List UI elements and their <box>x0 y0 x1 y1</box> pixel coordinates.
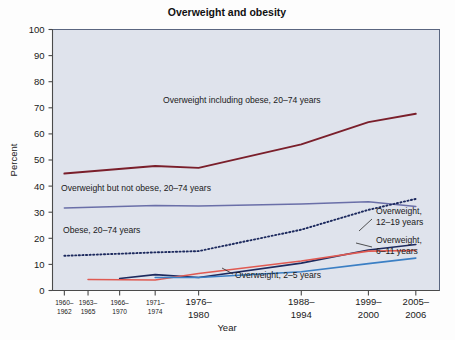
y-axis-title: Percent <box>8 143 19 176</box>
x-tick-label-line1: 1999– <box>355 296 382 307</box>
y-tick-label: 10 <box>34 259 45 270</box>
x-tick-label-line1: 1963– <box>79 299 98 306</box>
y-tick-label: 0 <box>39 285 44 296</box>
overweight-and-obesity-line-chart: Overweight and obesity 01020304050607080… <box>0 0 455 340</box>
y-tick-label: 40 <box>34 181 45 192</box>
y-tick-label: 60 <box>34 128 45 139</box>
x-tick-label-line2: 2000 <box>358 309 379 320</box>
x-tick-label-line2: 2006 <box>405 309 426 320</box>
y-tick-label: 50 <box>34 154 45 165</box>
chart-figure: Overweight and obesity 01020304050607080… <box>0 0 455 340</box>
y-tick-label: 90 <box>34 50 45 61</box>
chart-title: Overweight and obesity <box>168 6 287 18</box>
y-tick-label: 70 <box>34 102 45 113</box>
x-tick-label-line1: 1976– <box>185 296 212 307</box>
x-tick-label-line2: 1994 <box>291 309 312 320</box>
annotation-obese-20-74: Obese, 20–74 years <box>63 225 140 235</box>
annotation-overweight-not-obese: Overweight but not obese, 20–74 years <box>61 183 211 193</box>
annotation-overweight-6-11-line1: Overweight, <box>376 235 422 245</box>
x-tick-label-line1: 1971– <box>146 299 165 306</box>
y-tick-label: 80 <box>34 76 45 87</box>
x-tick-label-line1: 1960– <box>55 299 74 306</box>
annotation-overweight-including-obese: Overweight including obese, 20–74 years <box>163 95 321 105</box>
annotation-overweight-6-11-line2: 6–11 years <box>376 246 418 256</box>
annotation-overweight-12-19-line1: Overweight, <box>376 206 422 216</box>
x-tick-label-line2: 1970 <box>112 308 127 315</box>
y-tick-label: 20 <box>34 233 45 244</box>
x-tick-label-line1: 2005– <box>403 296 430 307</box>
annotation-overweight-12-19-line2: 12–19 years <box>376 217 423 227</box>
annotation-overweight-2-5: Overweight, 2–5 years <box>235 270 321 280</box>
x-tick-label-line2: 1974 <box>148 308 163 315</box>
x-tick-label-line1: 1966– <box>110 299 129 306</box>
x-axis-title: Year <box>217 322 236 333</box>
x-tick-label-line2: 1965 <box>81 308 96 315</box>
y-axis: 0102030405060708090100 <box>29 24 53 296</box>
x-tick-label-line2: 1962 <box>57 308 72 315</box>
x-axis: 1960–19621963–19651966–19701971–19741976… <box>53 291 440 320</box>
x-tick-label-line1: 1988– <box>288 296 315 307</box>
y-tick-label: 100 <box>29 24 45 35</box>
x-tick-label-line2: 1980 <box>188 309 209 320</box>
y-tick-label: 30 <box>34 207 45 218</box>
